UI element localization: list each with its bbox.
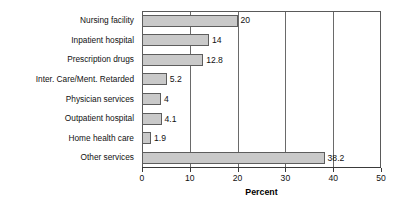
category-label: Inpatient hospital	[71, 31, 134, 51]
bar-value-label: 1.9	[151, 131, 166, 145]
bar-value-label: 20	[238, 13, 251, 27]
category-label: Home health care	[69, 129, 135, 149]
bar-row: 38.2	[142, 148, 381, 168]
bar	[142, 93, 161, 105]
x-tick-mark-10	[190, 168, 191, 172]
x-tick-mark-30	[285, 168, 286, 172]
bar-value-label: 4.1	[162, 112, 177, 126]
bar-row: 4	[142, 90, 381, 110]
x-axis-line	[142, 167, 381, 168]
category-label: Nursing facility	[80, 11, 134, 31]
x-tick-label: 30	[270, 173, 300, 184]
category-label: Other services	[81, 148, 134, 168]
bar-row: 4.1	[142, 109, 381, 129]
bar-value-label: 4	[161, 92, 169, 106]
category-label: Outpatient hospital	[65, 109, 134, 129]
bar-value-label: 14	[209, 33, 222, 47]
category-label: Inter. Care/Ment. Retarded	[36, 70, 134, 90]
x-tick-mark-0	[142, 168, 143, 172]
bar	[142, 73, 167, 85]
x-tick-label: 10	[175, 173, 205, 184]
bar-chart: Nursing facilityInpatient hospitalPrescr…	[0, 0, 405, 209]
bar-row: 12.8	[142, 50, 381, 70]
bar-row: 1.9	[142, 129, 381, 149]
x-axis-title: Percent	[142, 187, 381, 197]
x-tick-label: 0	[127, 173, 157, 184]
x-tick-label: 40	[318, 173, 348, 184]
bar-row: 5.2	[142, 70, 381, 90]
x-tick-label: 50	[366, 173, 396, 184]
bar-value-label: 38.2	[325, 151, 345, 165]
category-label: Physician services	[66, 90, 134, 110]
bar	[142, 152, 325, 164]
bar	[142, 54, 203, 66]
x-tick-mark-40	[333, 168, 334, 172]
bar-row: 14	[142, 31, 381, 51]
bar	[142, 15, 238, 27]
bar-value-label: 5.2	[167, 72, 182, 86]
bar	[142, 132, 151, 144]
bar	[142, 113, 162, 125]
bar	[142, 34, 209, 46]
x-tick-mark-20	[238, 168, 239, 172]
category-axis-labels: Nursing facilityInpatient hospitalPrescr…	[0, 11, 138, 168]
bars-layer: 201412.85.244.11.938.2	[142, 11, 381, 168]
bar-row: 20	[142, 11, 381, 31]
bar-value-label: 12.8	[203, 53, 223, 67]
x-tick-label: 20	[223, 173, 253, 184]
x-tick-mark-50	[381, 168, 382, 172]
category-label: Prescription drugs	[67, 50, 134, 70]
